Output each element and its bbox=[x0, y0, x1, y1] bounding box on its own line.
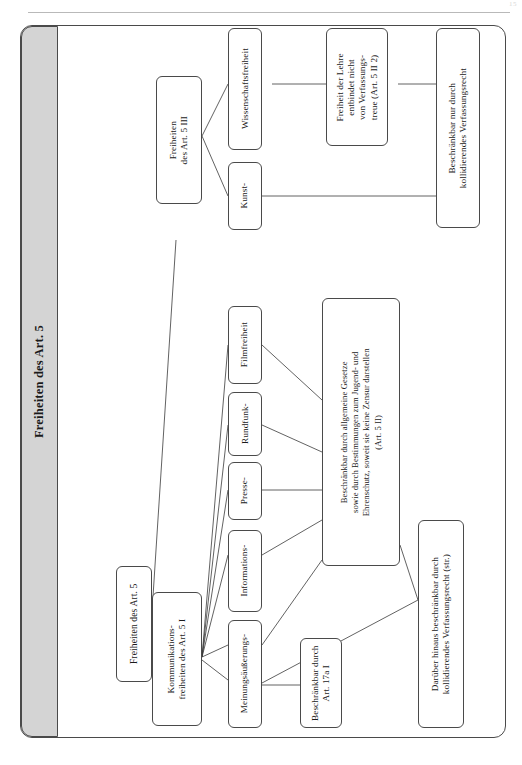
node-beschraenkbar-nur-kollidierendes-verfassungsrecht[interactable]: Beschränkbar nur durch kollidierendes Ve… bbox=[436, 28, 480, 228]
node-wissenschaftsfreiheit[interactable]: Wissenschaftsfreiheit bbox=[228, 28, 262, 150]
node-kunstfreiheit[interactable]: Kunst- bbox=[228, 162, 262, 230]
node-rundfunkfreiheit[interactable]: Rundfunk- bbox=[228, 392, 262, 456]
node-label: Kunst- bbox=[239, 183, 250, 209]
node-label: Rundfunk- bbox=[239, 404, 250, 445]
node-beschraenkbar-allgemeine-gesetze-art-5-ii[interactable]: Beschränkbar durch allgemeine Gesetze so… bbox=[322, 298, 400, 566]
node-freiheiten-art-5-iii[interactable]: Freiheiten des Art. 5 III bbox=[156, 76, 202, 204]
figure-page: 15 Freiheiten des Art. 5 bbox=[0, 0, 522, 765]
node-meinungsaeusserungsfreiheit[interactable]: Meinungsäußerungs- bbox=[228, 620, 262, 728]
node-label: Freiheiten des Art. 5 bbox=[128, 584, 140, 664]
node-label: Freiheiten des Art. 5 III bbox=[168, 116, 190, 164]
node-label: Meinungsäußerungs- bbox=[239, 634, 250, 713]
node-label: Informations- bbox=[239, 545, 250, 597]
node-beschraenkbar-art-17a-i[interactable]: Beschränkbar durch Art. 17a I bbox=[300, 638, 342, 728]
node-filmfreiheit[interactable]: Filmfreiheit bbox=[228, 306, 262, 384]
page-number: 15 bbox=[509, 0, 517, 8]
node-kommunikationsfreiheiten-art-5-i[interactable]: Kommunikations- freiheiten des Art. 5 I bbox=[152, 592, 202, 726]
node-pressefreiheit[interactable]: Presse- bbox=[228, 462, 262, 520]
node-label: Wissenschaftsfreiheit bbox=[239, 49, 250, 130]
page-header-rule bbox=[28, 12, 510, 13]
node-label: Presse- bbox=[239, 477, 250, 504]
node-darueber-hinaus-beschraenkbar[interactable]: Darüber hinaus beschränkbar durch kollid… bbox=[418, 520, 464, 728]
node-freiheiten-art-5[interactable]: Freiheiten des Art. 5 bbox=[116, 566, 152, 682]
node-freiheit-der-lehre[interactable]: Freiheit der Lehre entbindet nicht von V… bbox=[326, 28, 388, 146]
node-label: Filmfreiheit bbox=[239, 322, 250, 367]
node-label: Kommunikations- freiheiten des Art. 5 I bbox=[166, 619, 188, 700]
node-label: Beschränkbar durch Art. 17a I bbox=[310, 645, 332, 721]
node-label: Darüber hinaus beschränkbar durch kollid… bbox=[430, 554, 452, 694]
node-label: Freiheit der Lehre entbindet nicht von V… bbox=[335, 53, 380, 121]
page-title: Freiheiten des Art. 5 bbox=[32, 325, 47, 438]
node-label: Beschränkbar nur durch kollidierendes Ve… bbox=[447, 68, 469, 188]
node-label: Beschränkbar durch allgemeine Gesetze so… bbox=[339, 348, 384, 516]
node-informationsfreiheit[interactable]: Informations- bbox=[228, 530, 262, 612]
figure-title-band: Freiheiten des Art. 5 bbox=[21, 26, 58, 737]
